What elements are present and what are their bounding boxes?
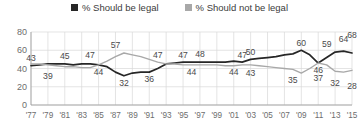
svg-text:'01: '01 (228, 111, 239, 120)
svg-text:44: 44 (187, 67, 197, 77)
chart-legend: % Should be legal % Should not be legal (0, 3, 359, 13)
svg-text:'15: '15 (347, 111, 358, 120)
svg-text:57: 57 (111, 40, 121, 50)
y-axis-labels: 020406080 (17, 27, 27, 110)
svg-text:68: 68 (347, 30, 357, 40)
marijuana-legalization-line-chart: % Should be legal % Should not be legal … (0, 0, 359, 130)
svg-text:'13: '13 (330, 111, 341, 120)
svg-text:47: 47 (153, 50, 163, 60)
svg-text:'11: '11 (313, 111, 324, 120)
x-axis-labels: '77'79'81'83'85'87'89'91'93'95'97'99'01'… (26, 111, 358, 120)
svg-text:47: 47 (178, 50, 188, 60)
svg-text:20: 20 (17, 82, 27, 92)
legend-item-should-not-be-legal: % Should not be legal (185, 3, 288, 13)
plot-area: 020406080 434544323647484750604659646839… (0, 18, 359, 130)
svg-text:'99: '99 (212, 111, 223, 120)
svg-text:47: 47 (85, 50, 95, 60)
svg-text:'09: '09 (296, 111, 307, 120)
svg-text:36: 36 (144, 74, 154, 84)
svg-text:'91: '91 (144, 111, 155, 120)
svg-text:'79: '79 (43, 111, 54, 120)
svg-text:'77: '77 (26, 111, 37, 120)
svg-text:'89: '89 (127, 111, 138, 120)
svg-text:'85: '85 (93, 111, 104, 120)
svg-text:59: 59 (322, 39, 332, 49)
svg-text:48: 48 (195, 49, 205, 59)
svg-text:35: 35 (288, 75, 298, 85)
svg-text:40: 40 (17, 64, 27, 74)
svg-text:'07: '07 (279, 111, 290, 120)
svg-text:'95: '95 (178, 111, 189, 120)
svg-text:'87: '87 (110, 111, 121, 120)
svg-text:44: 44 (229, 67, 239, 77)
svg-text:80: 80 (17, 27, 27, 37)
legend-label-should-be-legal: % Should be legal (82, 3, 159, 13)
svg-text:44: 44 (94, 67, 104, 77)
svg-text:39: 39 (43, 71, 53, 81)
legend-item-should-be-legal: % Should be legal (71, 3, 159, 13)
svg-text:37: 37 (313, 73, 323, 83)
svg-text:43: 43 (246, 68, 256, 78)
legend-label-should-not-be-legal: % Should not be legal (196, 3, 288, 13)
svg-text:32: 32 (119, 78, 129, 88)
svg-text:43: 43 (26, 53, 36, 63)
svg-text:'03: '03 (245, 111, 256, 120)
svg-text:32: 32 (330, 78, 340, 88)
svg-text:28: 28 (347, 81, 357, 91)
svg-text:50: 50 (246, 47, 256, 57)
data-point-labels: 4345443236474847506046596468394757474444… (26, 30, 357, 91)
plot-svg: 020406080 434544323647484750604659646839… (0, 18, 359, 130)
svg-text:45: 45 (60, 51, 70, 61)
svg-text:'93: '93 (161, 111, 172, 120)
svg-text:60: 60 (297, 38, 307, 48)
svg-text:'81: '81 (59, 111, 70, 120)
svg-text:'97: '97 (195, 111, 206, 120)
svg-text:'83: '83 (76, 111, 87, 120)
legend-swatch-should-not-be-legal (185, 4, 192, 11)
svg-text:0: 0 (22, 100, 27, 110)
svg-text:'05: '05 (262, 111, 273, 120)
legend-swatch-should-be-legal (71, 4, 78, 11)
